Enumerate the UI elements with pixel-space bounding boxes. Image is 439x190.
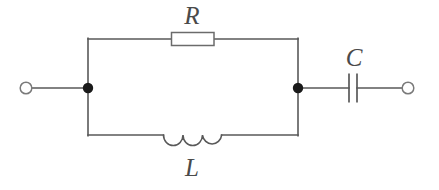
capacitor-label: C <box>333 45 375 70</box>
inductor-label: L <box>0 155 384 180</box>
circuit-diagram-canvas: R L C <box>0 0 439 190</box>
inductor-coil-arcs <box>164 135 222 146</box>
right-terminal-open-circle <box>402 82 414 94</box>
junction-node-group <box>83 83 303 93</box>
right-junction-node <box>293 83 303 93</box>
resistor-body <box>172 33 215 46</box>
inductor-symbol <box>164 135 222 146</box>
left-junction-node <box>83 83 93 93</box>
resistor-symbol <box>172 33 215 46</box>
resistor-label: R <box>0 3 384 28</box>
capacitor-symbol <box>349 74 357 103</box>
left-terminal-open-circle <box>20 82 32 94</box>
